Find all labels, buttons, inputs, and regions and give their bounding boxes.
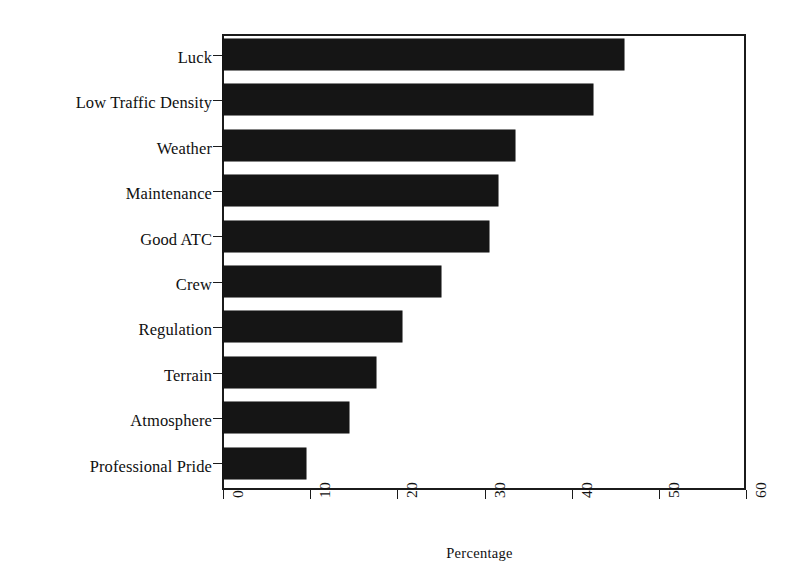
bar — [223, 266, 441, 297]
y-axis-tick-mark — [213, 418, 222, 419]
x-axis-tick-label: 60 — [752, 482, 770, 498]
x-axis-tick-label: 50 — [665, 482, 683, 498]
bar — [223, 175, 498, 206]
y-axis-tick-label: Regulation — [0, 307, 214, 352]
x-axis-tick-label: 10 — [316, 482, 334, 498]
bar-row — [223, 126, 746, 171]
x-axis-tick-mark — [746, 490, 747, 499]
y-axis-tick-mark — [213, 373, 222, 374]
y-axis-tick-label: Crew — [0, 262, 214, 307]
bar — [223, 130, 515, 161]
bar-chart: LuckLow Traffic DensityWeatherMaintenanc… — [0, 0, 795, 588]
x-axis-tick-mark — [659, 490, 660, 499]
y-axis-tick-mark — [213, 100, 222, 101]
y-axis-tick-label: Low Traffic Density — [0, 80, 214, 125]
bar-row — [223, 262, 746, 307]
y-axis-tick-label: Luck — [0, 35, 214, 80]
y-axis-tick-label: Terrain — [0, 353, 214, 398]
bar-row — [223, 80, 746, 125]
y-axis-tick-mark — [213, 55, 222, 56]
y-axis-tick-label: Good ATC — [0, 217, 214, 262]
x-axis-tick-mark — [572, 490, 573, 499]
x-axis-title-text: Percentage — [446, 545, 513, 561]
bar-row — [223, 35, 746, 80]
bar-row — [223, 307, 746, 352]
y-axis-tick-label: Weather — [0, 126, 214, 171]
x-axis-tick-label: 40 — [578, 482, 596, 498]
x-axis-tick-mark — [223, 490, 224, 499]
bar — [223, 311, 402, 342]
bar — [223, 402, 349, 433]
x-axis-title: Percentage — [0, 545, 795, 562]
y-axis-tick-label: Maintenance — [0, 171, 214, 216]
y-axis-category-labels: LuckLow Traffic DensityWeatherMaintenanc… — [0, 35, 214, 489]
y-axis-tick-mark — [213, 463, 222, 464]
bar-row — [223, 353, 746, 398]
bar — [223, 448, 306, 479]
bar-row — [223, 398, 746, 443]
y-axis-tick-mark — [213, 327, 222, 328]
x-axis-tick-mark — [310, 490, 311, 499]
bar-row — [223, 171, 746, 216]
y-axis-tick-mark — [213, 191, 222, 192]
y-axis-tick-label: Atmosphere — [0, 398, 214, 443]
bar — [223, 357, 376, 388]
y-axis-tick-mark — [213, 146, 222, 147]
x-axis-tick-mark — [485, 490, 486, 499]
bar-row — [223, 217, 746, 262]
y-axis-tick-mark — [213, 236, 222, 237]
x-axis-tick-label: 20 — [403, 482, 421, 498]
bar — [223, 84, 593, 115]
x-axis-tick-mark — [397, 490, 398, 499]
bars-layer — [223, 35, 746, 489]
y-axis-tick-label: Professional Pride — [0, 444, 214, 489]
bar — [223, 39, 624, 70]
x-axis-tick-label: 30 — [491, 482, 509, 498]
y-axis-tick-mark — [213, 282, 222, 283]
x-axis-tick-label: 0 — [229, 490, 247, 498]
bar — [223, 221, 489, 252]
